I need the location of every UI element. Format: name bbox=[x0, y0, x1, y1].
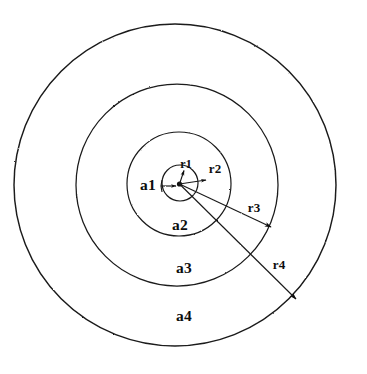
ring-a3-circle bbox=[76, 84, 278, 286]
radius-label-r2: r2 bbox=[209, 161, 221, 176]
ring-a4-circle bbox=[14, 24, 336, 346]
radius-label-r1: r1 bbox=[180, 157, 191, 171]
zone-label-a1: a1 bbox=[140, 176, 156, 193]
zone-label-a2: a2 bbox=[172, 216, 188, 233]
r1-arrow bbox=[180, 171, 185, 185]
concentric-circles-diagram: a1 a2 a3 a4 r1 r2 r3 r4 bbox=[0, 0, 367, 374]
r4-arrow bbox=[180, 184, 297, 299]
zone-label-a3: a3 bbox=[176, 259, 192, 276]
radius-label-r4: r4 bbox=[273, 257, 286, 272]
zone-label-a4: a4 bbox=[176, 307, 192, 324]
figure-root: a1 a2 a3 a4 r1 r2 r3 r4 bbox=[0, 0, 367, 374]
r2-arrow bbox=[180, 180, 207, 184]
radius-label-r3: r3 bbox=[248, 200, 261, 215]
